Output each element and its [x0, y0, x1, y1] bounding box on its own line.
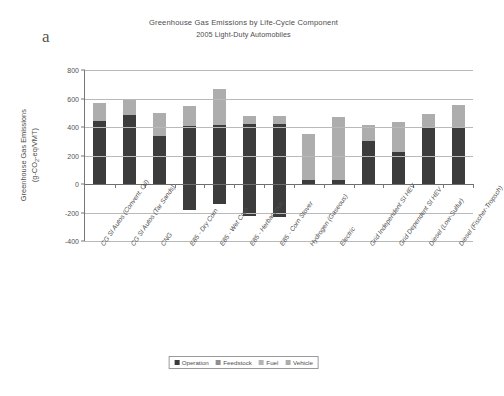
y-axis-title-line2-post: -eq/VMT): [30, 128, 39, 159]
x-tick-mark: [264, 184, 265, 188]
y-axis-title-subscript: 2: [34, 159, 40, 162]
y-tick-mark--400: [81, 241, 85, 242]
y-tick-label--200: -200: [65, 209, 79, 216]
bar-segment-operation: [123, 115, 136, 184]
x-tick-mark: [204, 184, 205, 188]
y-tick-mark-400: [81, 127, 85, 128]
bar-segment-operation: [362, 141, 375, 184]
gridline-600: [85, 99, 473, 100]
bar-segment-vehicle: [452, 105, 465, 129]
y-axis-title-line2-pre: (g-CO: [30, 162, 39, 182]
gridline-200: [85, 156, 473, 157]
y-tick-mark--200: [81, 212, 85, 213]
chart-subtitle: 2005 Light-Duty Automobiles: [0, 30, 487, 39]
chart-title-block: Greenhouse Gas Emissions by Life-Cycle C…: [0, 18, 487, 39]
x-tick-mark: [115, 184, 116, 188]
y-axis-title-line1: Greenhouse Gas Emissions: [19, 109, 28, 201]
legend-item-operation[interactable]: Operation: [174, 359, 209, 366]
gridline-400: [85, 127, 473, 128]
legend-swatch-fuel: [259, 360, 264, 365]
bar-segment-vehicle: [422, 114, 435, 128]
chart-legend: OperationFeedstockFuelVehicle: [168, 356, 319, 369]
y-tick-label-200: 200: [67, 152, 79, 159]
y-axis-title: Greenhouse Gas Emissions (g-CO2-eq/VMT): [18, 70, 42, 241]
legend-swatch-operation: [174, 360, 179, 365]
y-tick-mark-200: [81, 155, 85, 156]
y-tick-mark-0: [81, 184, 85, 185]
y-tick-mark-600: [81, 98, 85, 99]
bar-segment-vehicle: [302, 134, 315, 180]
gridline-800: [85, 70, 473, 71]
y-tick-label-800: 800: [67, 67, 79, 74]
bar-segment-operation: [273, 124, 286, 184]
bar-segment-vehicle: [213, 89, 226, 125]
legend-label: Fuel: [266, 359, 278, 366]
x-axis-labels: CG SI Autos (Convent. Oil)CG SI Autos (T…: [84, 243, 472, 343]
chart-title: Greenhouse Gas Emissions by Life-Cycle C…: [0, 18, 487, 27]
x-tick-mark: [234, 184, 235, 188]
bar-segment-operation: [243, 124, 256, 184]
y-tick-label-400: 400: [67, 124, 79, 131]
legend-label: Feedstock: [223, 359, 252, 366]
bar-segment-feedstock: [183, 184, 196, 210]
x-tick-mark: [443, 184, 444, 188]
bar-segment-vehicle: [153, 113, 166, 136]
legend-swatch-vehicle: [285, 360, 290, 365]
bar-segment-operation: [153, 136, 166, 184]
x-tick-mark: [383, 184, 384, 188]
x-tick-mark: [354, 184, 355, 188]
y-tick-label-0: 0: [75, 181, 79, 188]
legend-label: Operation: [182, 359, 209, 366]
x-tick-mark: [294, 184, 295, 188]
bar-segment-vehicle: [183, 106, 196, 126]
bar-segment-operation: [213, 125, 226, 184]
y-tick-label--400: -400: [65, 238, 79, 245]
bar-segment-vehicle: [123, 99, 136, 115]
plot-area: 8006004002000-200-400: [84, 70, 473, 241]
y-tick-label-600: 600: [67, 95, 79, 102]
legend-item-vehicle[interactable]: Vehicle: [285, 359, 312, 366]
y-tick-mark-800: [81, 70, 85, 71]
bar-segment-vehicle: [273, 116, 286, 125]
legend-item-fuel[interactable]: Fuel: [259, 359, 279, 366]
gridline--200: [85, 213, 473, 214]
x-tick-mark: [473, 184, 474, 188]
bar-segment-operation: [392, 152, 405, 184]
bar-segment-operation: [93, 121, 106, 184]
legend-swatch-feedstock: [216, 360, 221, 365]
bar-segment-vehicle: [243, 116, 256, 125]
x-tick-mark: [324, 184, 325, 188]
bar-segment-vehicle: [93, 103, 106, 120]
bar-segment-feedstock: [213, 184, 226, 204]
legend-item-feedstock[interactable]: Feedstock: [216, 359, 252, 366]
legend-label: Vehicle: [293, 359, 313, 366]
